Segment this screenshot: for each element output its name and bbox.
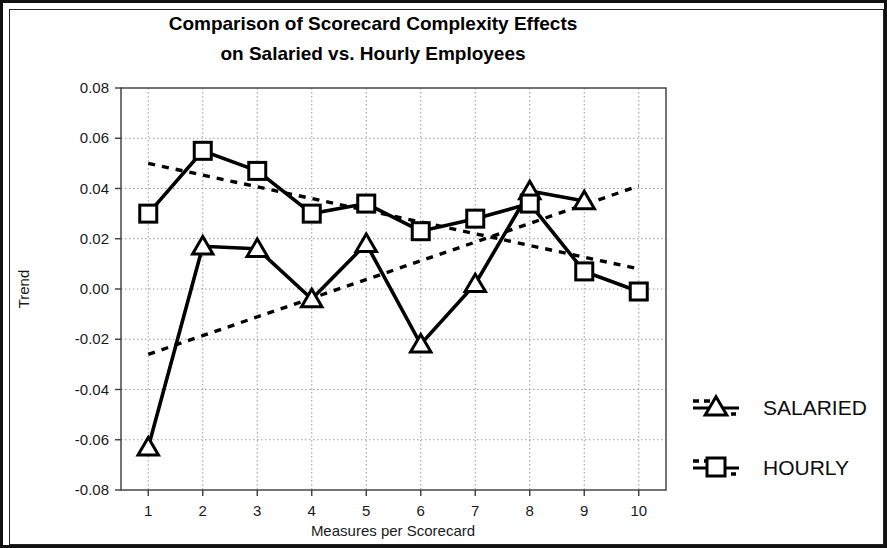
y-tick-label: 0.08 bbox=[80, 79, 109, 96]
legend-item-hourly: HOURLY bbox=[693, 456, 849, 479]
x-axis-tick-labels: 12345678910 bbox=[144, 502, 647, 519]
data-point-marker bbox=[465, 274, 485, 291]
x-tick-label: 7 bbox=[471, 502, 479, 519]
data-point-marker bbox=[576, 263, 593, 280]
series-hourly bbox=[140, 142, 648, 300]
data-point-marker bbox=[358, 195, 375, 212]
data-point-marker bbox=[467, 210, 484, 227]
series-salaried bbox=[138, 181, 594, 455]
legend-label: HOURLY bbox=[763, 456, 849, 479]
figure-outer-frame: Comparison of Scorecard Complexity Effec… bbox=[0, 0, 887, 548]
data-point-marker bbox=[521, 195, 538, 212]
chart-canvas: 0.080.060.040.020.00-0.02-0.04-0.06-0.08… bbox=[3, 3, 887, 548]
data-series bbox=[138, 142, 647, 455]
x-tick-label: 4 bbox=[308, 502, 316, 519]
data-point-marker bbox=[303, 205, 320, 222]
data-point-marker bbox=[356, 234, 376, 251]
x-axis-label: Measures per Scorecard bbox=[311, 522, 475, 539]
legend-label: SALARIED bbox=[763, 396, 867, 419]
y-axis-label: Trend bbox=[15, 270, 32, 309]
data-point-marker bbox=[140, 205, 157, 222]
y-tick-label: -0.06 bbox=[75, 431, 109, 448]
data-point-marker bbox=[412, 223, 429, 240]
x-tick-label: 5 bbox=[362, 502, 370, 519]
data-point-marker bbox=[194, 142, 211, 159]
data-point-marker bbox=[707, 458, 725, 476]
x-tick-label: 8 bbox=[526, 502, 534, 519]
x-tick-label: 2 bbox=[199, 502, 207, 519]
x-tick-label: 6 bbox=[417, 502, 425, 519]
y-axis-tick-labels: 0.080.060.040.020.00-0.02-0.04-0.06-0.08 bbox=[75, 79, 109, 498]
trendlines bbox=[148, 163, 639, 354]
x-tick-label: 9 bbox=[580, 502, 588, 519]
y-tick-label: -0.04 bbox=[75, 381, 109, 398]
y-tick-label: -0.08 bbox=[75, 481, 109, 498]
data-point-marker bbox=[630, 283, 647, 300]
chart-legend: SALARIEDHOURLY bbox=[693, 396, 867, 479]
legend-item-salaried: SALARIED bbox=[693, 396, 867, 419]
y-tick-label: 0.06 bbox=[80, 129, 109, 146]
x-tick-label: 10 bbox=[630, 502, 647, 519]
data-point-marker bbox=[249, 162, 266, 179]
y-tick-label: -0.02 bbox=[75, 330, 109, 347]
y-tick-label: 0.00 bbox=[80, 280, 109, 297]
y-tick-label: 0.04 bbox=[80, 180, 109, 197]
y-tick-label: 0.02 bbox=[80, 230, 109, 247]
trendline bbox=[148, 186, 639, 354]
x-tick-label: 3 bbox=[253, 502, 261, 519]
series-line bbox=[148, 151, 639, 292]
x-tick-label: 1 bbox=[144, 502, 152, 519]
